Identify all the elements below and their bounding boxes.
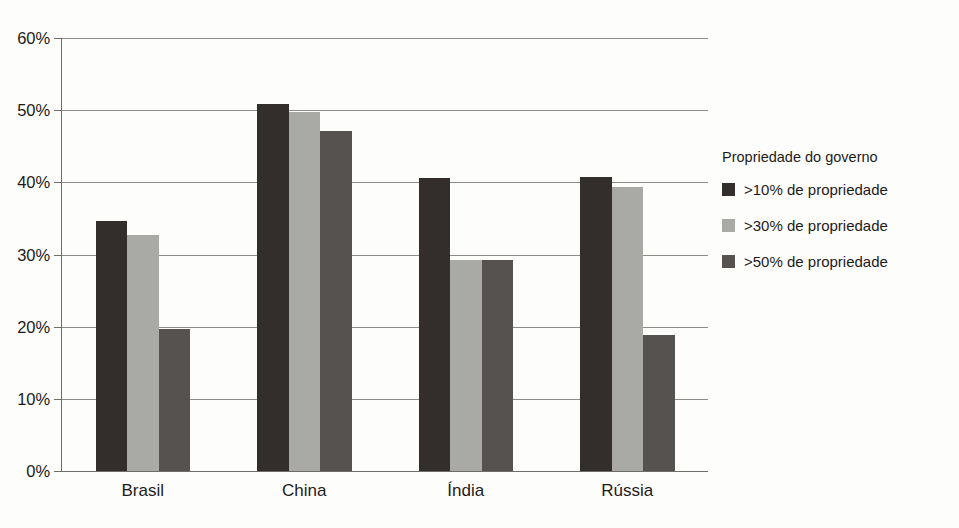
y-axis-tick-label: 50% — [0, 102, 50, 119]
bar — [482, 260, 514, 471]
y-axis-tick-label: 40% — [0, 174, 50, 191]
bar-group — [385, 38, 547, 471]
y-axis-tick-label: 10% — [0, 391, 50, 408]
x-axis-category-label: Brasil — [62, 482, 224, 499]
x-axis-category-label: Rússia — [547, 482, 709, 499]
legend-swatch-icon — [722, 183, 735, 196]
legend-item-label: >50% de propriedade — [744, 254, 888, 269]
y-axis-tick-label: 20% — [0, 319, 50, 336]
bar — [96, 221, 128, 471]
gridline — [62, 471, 708, 472]
bar — [257, 104, 289, 471]
legend: Propriedade do governo >10% de proprieda… — [722, 150, 954, 290]
y-axis-tick — [54, 399, 61, 400]
bar — [419, 178, 451, 471]
bar-group — [62, 38, 224, 471]
x-axis-category-label: Índia — [385, 482, 547, 499]
bar — [643, 335, 675, 471]
y-axis-tick — [54, 38, 61, 39]
y-axis-tick-label: 0% — [0, 463, 50, 480]
y-axis-tick — [54, 327, 61, 328]
legend-item-label: >30% de propriedade — [744, 218, 888, 233]
y-axis-tick-label: 30% — [0, 247, 50, 264]
y-axis-tick-label: 60% — [0, 30, 50, 47]
bar — [159, 329, 191, 471]
bar — [612, 187, 644, 471]
x-axis-category-label: China — [224, 482, 386, 499]
y-axis-tick-labels: 0%10%20%30%40%50%60% — [0, 0, 50, 528]
legend-item: >10% de propriedade — [722, 182, 954, 197]
y-axis-tick — [54, 110, 61, 111]
legend-items: >10% de propriedade>30% de propriedade>5… — [722, 182, 954, 269]
legend-swatch-icon — [722, 255, 735, 268]
legend-item: >50% de propriedade — [722, 254, 954, 269]
bar — [320, 131, 352, 471]
legend-item-label: >10% de propriedade — [744, 182, 888, 197]
legend-swatch-icon — [722, 219, 735, 232]
legend-item: >30% de propriedade — [722, 218, 954, 233]
legend-title: Propriedade do governo — [722, 150, 954, 165]
government-ownership-bar-chart: 0%10%20%30%40%50%60% BrasilChinaÍndiaRús… — [0, 0, 959, 528]
bar-group — [224, 38, 386, 471]
bar — [450, 260, 482, 471]
bar — [127, 235, 159, 471]
bar — [289, 112, 321, 471]
y-axis-tick — [54, 255, 61, 256]
bar-group — [547, 38, 709, 471]
y-axis-tick — [54, 182, 61, 183]
y-axis-tick — [54, 471, 61, 472]
bar — [580, 177, 612, 471]
plot-area — [62, 38, 708, 471]
